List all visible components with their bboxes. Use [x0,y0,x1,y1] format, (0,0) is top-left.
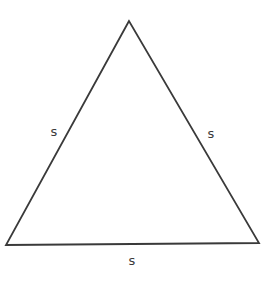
right-side-label: s [208,127,215,140]
bottom-side-label: s [129,254,136,267]
left-side-label: s [51,125,58,138]
equilateral-triangle [6,21,259,245]
triangle-diagram [0,0,274,286]
